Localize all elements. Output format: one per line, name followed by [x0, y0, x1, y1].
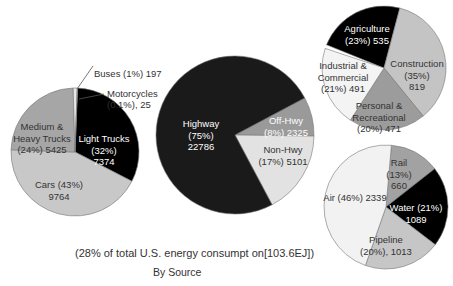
- label-medium-heavy-trucks: Medium &Heavy Trucks(24%) 5425: [13, 121, 71, 155]
- pie-transportation: Off-Hwy(8%) 2325Non-Hwy(17%) 5101Highway…: [156, 56, 314, 214]
- label-personal-recreational: Personal &Recreational(20%) 471: [352, 100, 405, 134]
- pie-charts: Light Trucks(32%)7374Cars (43%)9764Mediu…: [0, 0, 453, 286]
- buses-callout: Buses (1%) 197: [94, 68, 162, 79]
- label-agriculture: Agriculture(23%) 535: [344, 23, 389, 46]
- label-off-hwy: Off-Hwy(8%) 2325: [264, 115, 308, 138]
- caption-total: (28% of total U.S. energy consumpt on[10…: [75, 247, 314, 259]
- pie-non-highway: Rail(13%)660Water (21%)1089Pipeline(20%)…: [323, 145, 448, 269]
- buses-leader-line: [77, 66, 93, 89]
- pie-off-highway: Agriculture(23%) 535Construction(35%)819…: [318, 6, 446, 134]
- label-industrial-commercial: Industrial &Commercial(21%) 491: [318, 60, 369, 94]
- label-non-hwy: Non-Hwy(17%) 5101: [258, 144, 307, 167]
- caption-by-source: By Source: [153, 266, 201, 278]
- motorcycles-callout: Motorcycles(0.1%), 25: [107, 88, 158, 110]
- label-air: Air (46%) 2339: [323, 192, 386, 203]
